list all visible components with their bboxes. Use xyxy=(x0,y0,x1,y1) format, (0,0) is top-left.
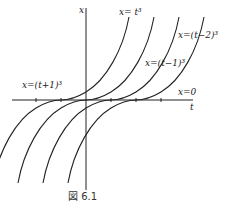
label-curve-t-plus-1: x=(t+1)³ xyxy=(22,80,63,90)
label-curve-t-minus-1: x=(t−1)³ xyxy=(145,58,186,68)
t-axis-label: t xyxy=(190,102,194,112)
figure-caption: 図 6.1 xyxy=(68,191,97,202)
label-curve-t-minus-2: x=(t−2)³ xyxy=(178,30,219,40)
label-zero-solution: x=0 xyxy=(178,87,197,97)
label-curve-t: x= t³ xyxy=(119,7,142,17)
solution-curves-figure: x t x= t³ x=(t−2)³ x=(t−1)³ x=(t+1)³ x=0… xyxy=(0,0,234,210)
x-axis-label: x xyxy=(79,5,84,15)
